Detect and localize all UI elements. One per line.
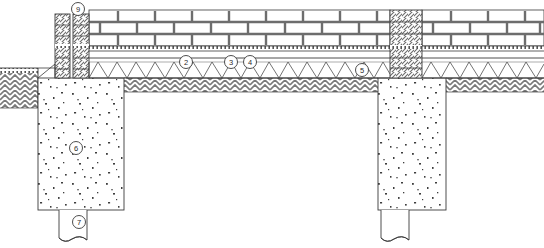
callout-6-label: 6 bbox=[74, 144, 78, 153]
callout-3-label: 3 bbox=[229, 58, 233, 67]
callout-4-label: 4 bbox=[248, 58, 252, 67]
callout-9[interactable]: 9 bbox=[72, 3, 85, 16]
floor-slab bbox=[89, 58, 544, 62]
earth-fill-right-outer bbox=[446, 78, 544, 92]
callout-3[interactable]: 3 bbox=[225, 56, 238, 69]
callout-2[interactable]: 2 bbox=[180, 56, 193, 69]
hatched-column-right bbox=[390, 10, 422, 78]
callout-5[interactable]: 5 bbox=[356, 64, 369, 77]
callout-9-label: 9 bbox=[76, 5, 80, 14]
brick-masonry-wall-right bbox=[422, 10, 544, 46]
zigzag-truss-fill-left bbox=[89, 62, 390, 78]
earth-fill-left-outer bbox=[0, 68, 38, 108]
callout-7-label: 7 bbox=[77, 218, 81, 227]
hatched-column-left-outer bbox=[55, 14, 70, 78]
hatched-column-left-inner bbox=[73, 14, 89, 78]
callout-5-label: 5 bbox=[360, 66, 364, 75]
mortar-screed-band bbox=[89, 46, 544, 51]
callout-2-label: 2 bbox=[184, 58, 188, 67]
brick-masonry-wall-left bbox=[89, 10, 390, 46]
callout-4[interactable]: 4 bbox=[244, 56, 257, 69]
callout-6[interactable]: 6 bbox=[70, 142, 83, 155]
zigzag-truss-fill-right bbox=[422, 62, 544, 78]
pile-shaft-right bbox=[381, 210, 409, 241]
earth-fill-under-slab bbox=[124, 78, 378, 92]
concrete-footing-right bbox=[378, 78, 446, 210]
callout-7[interactable]: 7 bbox=[73, 216, 86, 229]
foundation-section-drawing: 9234567 bbox=[0, 0, 544, 248]
drawing-canvas: 9234567 bbox=[0, 0, 544, 248]
